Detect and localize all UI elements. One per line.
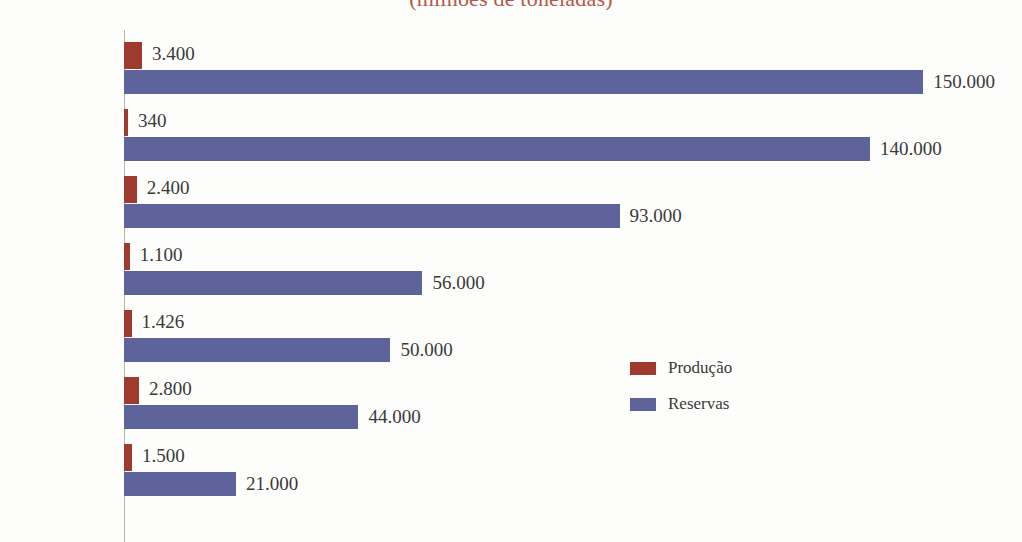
chart-row: China2.80044.000	[124, 377, 1022, 444]
plot-area: África do Sul3.400150.000Ucrânia340140.0…	[124, 30, 1022, 542]
bar-reservas[interactable]	[124, 472, 236, 496]
bar-value-producao: 2.400	[147, 177, 190, 199]
bar-reservas[interactable]	[124, 271, 422, 295]
bar-value-reservas: 56.000	[432, 272, 484, 294]
bar-reservas[interactable]	[124, 338, 390, 362]
bar-reservas[interactable]	[124, 70, 923, 94]
bar-reservas[interactable]	[124, 204, 620, 228]
bar-value-reservas: 50.000	[400, 339, 452, 361]
chart-row: Brasil1.42650.000	[124, 310, 1022, 377]
legend-item-producao[interactable]: Produção	[630, 358, 732, 378]
bar-producao[interactable]	[124, 243, 130, 270]
chart-row: Austrália2.40093.000	[124, 176, 1022, 243]
bar-producao[interactable]	[124, 176, 137, 203]
legend-label-producao: Produção	[668, 358, 732, 378]
bar-value-producao: 2.800	[149, 378, 192, 400]
chart-row: Índia1.10056.000	[124, 243, 1022, 310]
legend-label-reservas: Reservas	[668, 394, 729, 414]
bar-producao[interactable]	[124, 42, 142, 69]
chart-title: (milhões de toneladas)	[0, 0, 1022, 12]
bar-value-producao: 340	[138, 110, 167, 132]
bar-value-producao: 1.426	[142, 311, 185, 333]
legend-item-reservas[interactable]: Reservas	[630, 394, 732, 414]
chart-row: África do Sul3.400150.000	[124, 42, 1022, 109]
bar-producao[interactable]	[124, 377, 139, 404]
legend-swatch-producao	[630, 362, 656, 375]
bar-producao[interactable]	[124, 444, 132, 471]
bar-value-reservas: 140.000	[880, 138, 942, 160]
bar-value-reservas: 21.000	[246, 473, 298, 495]
bar-value-producao: 1.500	[142, 445, 185, 467]
bar-reservas[interactable]	[124, 137, 870, 161]
bar-reservas[interactable]	[124, 405, 358, 429]
chart-row: Ucrânia340140.000	[124, 109, 1022, 176]
bar-value-reservas: 44.000	[368, 406, 420, 428]
bar-producao[interactable]	[124, 109, 128, 136]
bar-value-reservas: 93.000	[630, 205, 682, 227]
legend-swatch-reservas	[630, 398, 656, 411]
chart-row: Gabão1.50021.000	[124, 444, 1022, 511]
bar-chart: (milhões de toneladas) África do Sul3.40…	[0, 0, 1022, 542]
bar-value-producao: 1.100	[140, 244, 183, 266]
bar-producao[interactable]	[124, 310, 132, 337]
chart-legend: Produção Reservas	[630, 358, 732, 430]
bar-value-reservas: 150.000	[933, 71, 995, 93]
bar-value-producao: 3.400	[152, 43, 195, 65]
